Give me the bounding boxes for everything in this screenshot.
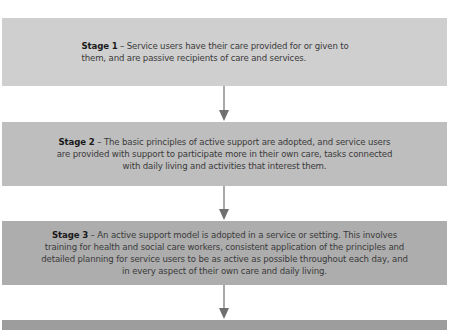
stage-3-description: An active support model is adopted in a … (41, 230, 408, 277)
down-arrow-icon (217, 86, 231, 122)
stage-3-text: Stage 3 – An active support model is ado… (37, 229, 412, 278)
down-arrow-icon (217, 285, 231, 320)
stage-2-text: Stage 2 – The basic principles of active… (55, 136, 395, 173)
stage-2-separator: – (95, 137, 104, 147)
stage-1-separator: – (118, 41, 127, 51)
stage-2-label: Stage 2 (59, 137, 95, 147)
stage-1-label: Stage 1 (82, 41, 118, 51)
stage-2-box: Stage 2 – The basic principles of active… (2, 122, 447, 186)
stage-2-description: The basic principles of active support a… (57, 137, 393, 171)
stage-3-label: Stage 3 (52, 230, 88, 240)
stage-3-box: Stage 3 – An active support model is ado… (2, 221, 447, 285)
stage-1-text: Stage 1 – Service users have their care … (82, 40, 362, 64)
stage-4-box (2, 320, 447, 330)
down-arrow-icon (217, 186, 231, 221)
stage-3-separator: – (88, 230, 97, 240)
stage-1-box: Stage 1 – Service users have their care … (2, 18, 447, 86)
